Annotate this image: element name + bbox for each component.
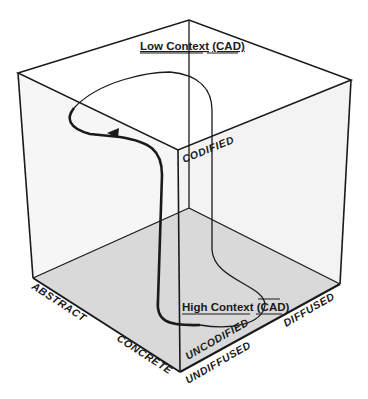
- cube-diagram: Low Context (CAD) High Context (CAD) COD…: [0, 0, 368, 399]
- low-context-label: Low Context (CAD): [140, 40, 245, 52]
- high-context-label: High Context (CAD): [182, 301, 290, 313]
